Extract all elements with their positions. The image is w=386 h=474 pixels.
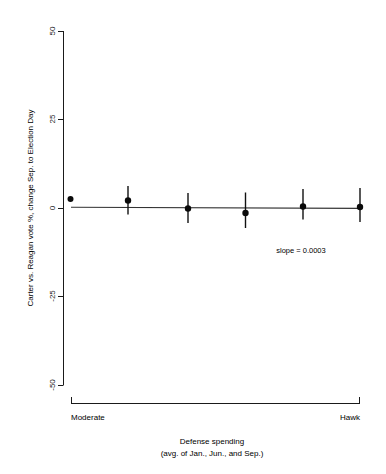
x-category-label-hawk: Hawk: [340, 413, 361, 422]
y-tick-label-neg50: -50: [48, 379, 57, 391]
data-point: [185, 205, 191, 211]
x-axis-subtitle: (avg. of Jan., Jun., and Sep.): [161, 449, 264, 458]
data-point: [300, 203, 306, 209]
data-point: [68, 196, 74, 202]
y-tick-label-0: 0: [48, 205, 57, 210]
scatter-plot-svg: 50 25 0 -25 -50 Carter vs. Reagan vote %…: [0, 0, 386, 474]
slope-annotation: slope = 0.0003: [276, 246, 325, 255]
data-point: [357, 204, 363, 210]
y-tick-label-50: 50: [48, 26, 57, 35]
data-point: [125, 197, 131, 203]
x-category-label-moderate: Moderate: [71, 413, 105, 422]
y-tick-label-neg25: -25: [48, 290, 57, 302]
y-axis-title: Carter vs. Reagan vote %, change Sep. to…: [26, 110, 35, 307]
y-tick-label-25: 25: [48, 114, 57, 123]
plot-background: [0, 0, 386, 474]
x-axis-title: Defense spending: [180, 437, 245, 446]
data-point: [242, 210, 248, 216]
chart-canvas: 50 25 0 -25 -50 Carter vs. Reagan vote %…: [0, 0, 386, 474]
data-point-group-1: [68, 196, 74, 202]
